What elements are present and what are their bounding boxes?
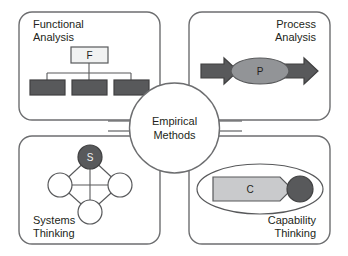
empirical-methods-diagram: Functional Analysis F Process <box>0 0 348 256</box>
network-node <box>48 173 72 197</box>
network-node <box>108 173 132 197</box>
hub-label-line2: Methods <box>153 129 196 141</box>
panel-capability-thinking-label-line1: Capability <box>268 214 317 226</box>
tree-child-box <box>72 80 107 95</box>
capability-arrow-glyph: C <box>246 184 253 195</box>
process-ellipse-glyph: P <box>257 66 264 77</box>
panel-process-analysis-label-line1: Process <box>276 18 316 30</box>
panel-functional-analysis-label-line1: Functional <box>33 18 84 30</box>
tree-child-box <box>114 80 149 95</box>
panel-systems-thinking-label-line2: Thinking <box>33 227 75 239</box>
diagram-canvas: Functional Analysis F Process <box>0 0 348 256</box>
hub-empirical-methods[interactable]: Empirical Methods <box>130 83 220 173</box>
network-node <box>78 200 102 224</box>
hub-label-line1: Empirical <box>152 115 197 127</box>
tree-root-glyph: F <box>86 50 92 61</box>
capability-flow: C <box>197 164 323 214</box>
panel-process-analysis-label-line2: Analysis <box>275 31 316 43</box>
panel-functional-analysis-label-line2: Analysis <box>33 31 74 43</box>
hub-circle <box>130 83 220 173</box>
panel-systems-thinking-label-line1: Systems <box>33 214 76 226</box>
network-node-primary-glyph: S <box>87 152 94 163</box>
tree-child-box <box>30 80 65 95</box>
capability-endpoint-node <box>287 176 313 202</box>
panel-capability-thinking-label-line2: Thinking <box>274 227 316 239</box>
